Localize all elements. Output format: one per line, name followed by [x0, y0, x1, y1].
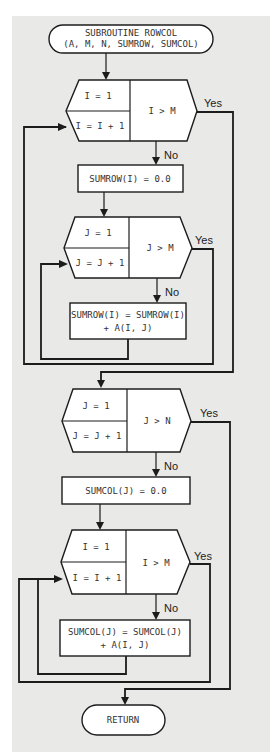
- loop3-no-label: No: [164, 460, 178, 472]
- accumulate-sumrow-box: SUMROW(I) = SUMROW(I) + A(I, J): [70, 303, 186, 339]
- loop2-hexagon: J = 1 J = J + 1 J > M: [64, 217, 192, 278]
- box2-line1: SUMROW(I) = SUMROW(I): [71, 310, 185, 320]
- loop1-test: I > M: [148, 106, 176, 116]
- loop3-incr: J = J + 1: [73, 431, 122, 441]
- flowchart: SUBROUTINE ROWCOL (A, M, N, SUMROW, SUMC…: [0, 0, 280, 756]
- accumulate-sumcol-box: SUMCOL(J) = SUMCOL(J) + A(I, J): [60, 620, 190, 656]
- box4-line1: SUMCOL(J) = SUMCOL(J): [68, 627, 182, 637]
- loop3-init: J = 1: [82, 401, 109, 411]
- loop1-hexagon: I = 1 I = I + 1 I > M: [66, 80, 197, 141]
- loop4-yes-label: Yes: [194, 550, 212, 562]
- loop4-incr: I = I + 1: [73, 573, 122, 583]
- box4-line2: + A(I, J): [101, 640, 150, 650]
- box2-line2: + A(I, J): [104, 323, 153, 333]
- loop2-no-label: No: [165, 286, 179, 298]
- box3-text: SUMCOL(J) = 0.0: [85, 486, 166, 496]
- loop2-test: J > M: [146, 243, 174, 253]
- start-terminal: SUBROUTINE ROWCOL (A, M, N, SUMROW, SUMC…: [49, 25, 213, 53]
- loop4-test: I > M: [142, 558, 170, 568]
- loop1-yes-label: Yes: [204, 97, 222, 109]
- return-terminal: RETURN: [82, 705, 165, 735]
- loop1-incr: I = I + 1: [76, 121, 125, 131]
- loop4-init: I = 1: [82, 542, 109, 552]
- loop1-no-label: No: [164, 149, 178, 161]
- init-sumcol-box: SUMCOL(J) = 0.0: [62, 477, 190, 504]
- loop3-yes-label: Yes: [200, 407, 218, 419]
- start-line1: SUBROUTINE ROWCOL: [85, 28, 177, 38]
- loop1-init: I = 1: [84, 91, 111, 101]
- end-text: RETURN: [107, 715, 140, 725]
- loop4-no-label: No: [164, 602, 178, 614]
- loop2-yes-label: Yes: [195, 234, 213, 246]
- box1-text: SUMROW(I) = 0.0: [89, 174, 170, 184]
- loop2-incr: J = J + 1: [76, 258, 125, 268]
- start-line2: (A, M, N, SUMROW, SUMCOL): [63, 39, 198, 49]
- loop2-init: J = 1: [84, 228, 111, 238]
- loop3-test: J > N: [143, 416, 170, 426]
- loop3-hexagon: J = 1 J = J + 1 J > N: [62, 389, 191, 452]
- loop4-hexagon: I = 1 I = I + 1 I > M: [61, 530, 190, 594]
- init-sumrow-box: SUMROW(I) = 0.0: [78, 165, 183, 192]
